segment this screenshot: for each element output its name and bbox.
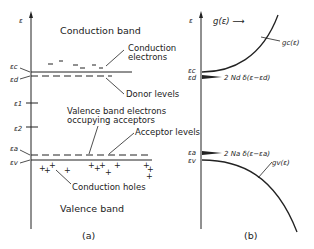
g-axis-label: g(ε) ⟶ bbox=[213, 16, 245, 26]
valence-band-label: Valence band bbox=[60, 203, 124, 214]
panel-a-caption: (a) bbox=[82, 230, 95, 241]
pointer-arrow-icon bbox=[106, 78, 124, 94]
axis-label-a: ε bbox=[19, 17, 23, 25]
svg-text:+: + bbox=[105, 168, 112, 177]
acceptor-delta-label: 2 Na δ(ε−εa) bbox=[224, 150, 270, 158]
panel-b: ε g(ε) ⟶ gc(ε) 2 Nd δ(ε−εd) εc εd 2 Na δ… bbox=[188, 11, 300, 241]
ec-label-a: εc bbox=[10, 63, 18, 71]
valence-electrons-label-2: occupying acceptors bbox=[67, 115, 155, 125]
band-diagram-figure: ε Conduction band εc εd Conduction elect… bbox=[0, 0, 314, 249]
e2-label: ε2 bbox=[14, 125, 23, 133]
conduction-holes: + + + + + + + + + + + + bbox=[39, 161, 154, 181]
svg-text:+: + bbox=[49, 161, 56, 170]
svg-text:+: + bbox=[146, 172, 153, 181]
conduction-holes-label: Conduction holes bbox=[72, 182, 146, 192]
ev-label-b: εv bbox=[188, 157, 197, 165]
svg-text:+: + bbox=[64, 166, 71, 175]
panel-b-caption: (b) bbox=[244, 230, 257, 241]
ea-label-b: εa bbox=[188, 149, 196, 157]
ea-label-a: εa bbox=[10, 145, 18, 153]
pointer-arrow-icon bbox=[109, 133, 134, 154]
conduction-band-label: Conduction band bbox=[60, 25, 141, 36]
pointer-arrow-icon bbox=[258, 162, 272, 178]
panel-a: ε Conduction band εc εd Conduction elect… bbox=[10, 11, 201, 241]
donor-levels-label: Donor levels bbox=[126, 89, 180, 99]
ed-label-a: εd bbox=[10, 76, 19, 84]
svg-text:+: + bbox=[114, 161, 121, 170]
acceptor-delta-spike bbox=[202, 151, 222, 155]
donor-delta-spike bbox=[202, 75, 222, 79]
donor-delta-label: 2 Nd δ(ε−εd) bbox=[224, 74, 270, 82]
axis-arrow-icon bbox=[199, 11, 203, 18]
pointer-arrow-icon bbox=[261, 37, 280, 41]
pointer-arrow-icon bbox=[89, 126, 98, 154]
ev-label-a: εv bbox=[10, 159, 19, 167]
e1-label: ε1 bbox=[14, 100, 22, 108]
ed-label-b: εd bbox=[188, 74, 197, 82]
conduction-electrons bbox=[48, 61, 103, 68]
conduction-electrons-label-2: electrons bbox=[128, 52, 168, 62]
gv-curve bbox=[202, 160, 297, 232]
axis-arrow-icon bbox=[29, 11, 33, 18]
acceptor-levels-label: Acceptor levels bbox=[135, 127, 201, 137]
gv-label: gv(ε) bbox=[272, 159, 290, 167]
pointer-arrow-icon bbox=[106, 50, 124, 66]
axis-label-b: ε bbox=[189, 17, 193, 25]
gc-label: gc(ε) bbox=[282, 39, 300, 47]
